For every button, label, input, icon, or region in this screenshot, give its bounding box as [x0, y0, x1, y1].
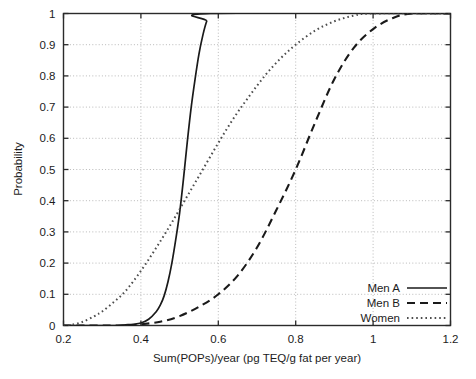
x-tick-label: 0.6 — [210, 333, 226, 345]
legend-label-men-b: Men B — [367, 297, 401, 309]
y-tick-label: 1 — [49, 8, 55, 20]
legend-label-women: Women — [361, 312, 400, 324]
y-tick-label: 0 — [49, 320, 55, 332]
y-tick-label: 0.6 — [40, 132, 56, 144]
y-tick-label: 0.9 — [40, 39, 56, 51]
y-axis-title: Probability — [12, 142, 24, 196]
y-tick-label: 0.1 — [40, 288, 56, 300]
y-tick-label: 0.3 — [40, 226, 56, 238]
x-tick-label: 0.8 — [288, 333, 304, 345]
y-gridlines — [64, 45, 451, 295]
x-tick-label: 1.2 — [443, 333, 459, 345]
chart-legend: Men AMen BWomen — [361, 282, 447, 324]
y-axis-tick-labels: 00.10.20.30.40.50.60.70.80.91 — [40, 8, 57, 332]
x-tick-label: 1 — [370, 333, 376, 345]
x-axis-title: Sum(POPs)/year (pg TEQ/g fat per year) — [153, 352, 361, 364]
chart-plot-area: 0.20.40.60.811.2 00.10.20.30.40.50.60.70… — [0, 0, 476, 379]
y-tick-label: 0.5 — [40, 164, 56, 176]
legend-label-men-a: Men A — [367, 282, 400, 294]
chart-container: 0.20.40.60.811.2 00.10.20.30.40.50.60.70… — [0, 0, 476, 379]
y-tick-label: 0.8 — [40, 70, 56, 82]
x-axis-tick-labels: 0.20.40.60.811.2 — [56, 333, 459, 345]
y-tick-label: 0.7 — [40, 101, 56, 113]
y-tick-label: 0.4 — [40, 195, 57, 207]
x-tick-label: 0.2 — [56, 333, 72, 345]
y-tick-label: 0.2 — [40, 257, 56, 269]
x-tick-label: 0.4 — [133, 333, 150, 345]
